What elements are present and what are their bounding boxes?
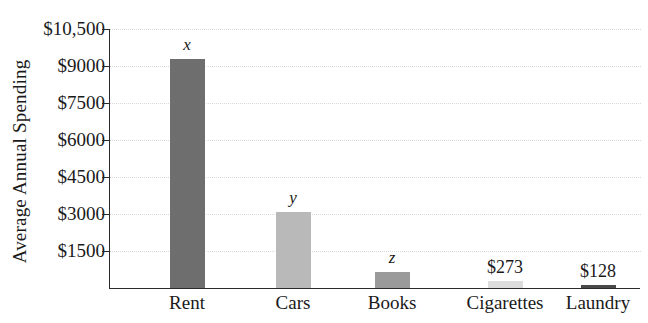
y-axis-tick-label: $6000 xyxy=(38,129,105,151)
y-axis-tick-labels: $1500$3000$4500$6000$7500$9000$10,500 xyxy=(38,0,105,323)
y-axis-title: Average Annual Spending xyxy=(0,0,40,323)
bar-value-label: z xyxy=(389,248,396,268)
x-axis-label-rent: Rent xyxy=(169,292,205,314)
bar-value-label: $128 xyxy=(580,261,616,282)
bar-chart: Average Annual Spending $1500$3000$4500$… xyxy=(0,0,648,323)
bar-value-label: x xyxy=(183,35,191,55)
y-axis-tick-label: $7500 xyxy=(38,92,105,114)
y-axis-tick-label: $4500 xyxy=(38,166,105,188)
bar-books xyxy=(375,272,410,288)
plot-area: xyz$273$128 RentCarsBooksCigarettesLaund… xyxy=(109,0,648,323)
bar-value-label: y xyxy=(289,188,297,208)
x-axis-label-cigarettes: Cigarettes xyxy=(466,292,543,314)
x-axis-label-books: Books xyxy=(368,292,417,314)
x-axis-label-laundry: Laundry xyxy=(566,292,630,314)
bar-cars xyxy=(276,212,311,288)
bar-laundry xyxy=(581,285,616,288)
gridline xyxy=(110,29,641,31)
x-axis-line xyxy=(109,288,640,289)
y-axis-line xyxy=(109,29,110,289)
y-axis-tick-label: $10,500 xyxy=(38,18,105,40)
bar-cigarettes xyxy=(488,281,523,288)
y-axis-tick-label: $9000 xyxy=(38,55,105,77)
y-axis-tick-label: $3000 xyxy=(38,203,105,225)
bar-value-label: $273 xyxy=(487,257,523,278)
y-axis-tick-label: $1500 xyxy=(38,240,105,262)
bar-rent xyxy=(170,59,205,288)
x-axis-label-cars: Cars xyxy=(276,292,311,314)
